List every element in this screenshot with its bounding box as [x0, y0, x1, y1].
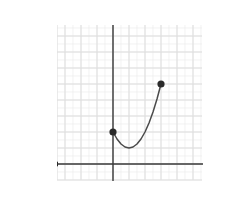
- right-mask: [203, 0, 227, 205]
- graph-figure: 19.: [0, 0, 227, 205]
- left-mask: [0, 0, 57, 205]
- curve-endpoint-right: [157, 80, 164, 87]
- y-axis: [110, 17, 115, 188]
- coordinate-plot: x y 0 2 4 6 8 -4 -2 0 2 4 6: [0, 0, 227, 205]
- grid-major: [57, 25, 202, 180]
- curve-endpoint-left: [109, 128, 116, 135]
